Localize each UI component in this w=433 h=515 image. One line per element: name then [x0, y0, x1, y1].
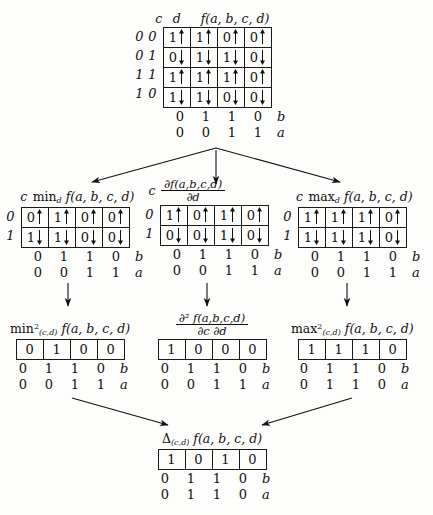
axis-row-a: 0110a	[152, 487, 272, 503]
row-header-c: c	[151, 12, 167, 25]
axis-a-value: 1	[204, 377, 230, 393]
table-cell: 1	[298, 340, 325, 360]
op-subscript: d	[335, 196, 340, 205]
axis-label-a: a	[401, 377, 411, 393]
cell-value: 0	[194, 342, 202, 357]
axis-a-value: 0	[302, 265, 328, 281]
cell-value: 0	[108, 230, 116, 245]
row-header-d: d	[167, 12, 187, 25]
arrow-down-icon	[232, 49, 239, 65]
axis-b-value: 0	[230, 471, 256, 487]
table-cell: 0	[218, 88, 245, 108]
arrow-down-icon	[117, 229, 124, 245]
axis-b-value: 0	[167, 109, 193, 125]
table-block-f: cdf(a, b, c, d) 00 01 11 10 1 1 0 0 0 1	[133, 12, 287, 141]
arrow-down-icon	[313, 229, 320, 245]
axis-row-a: 0011a	[152, 377, 272, 393]
axis-a-value: 1	[178, 487, 204, 503]
cell-value: 0	[247, 228, 255, 243]
cell-value: 0	[385, 230, 393, 245]
axis-row-b: 0110b	[152, 471, 272, 487]
axis-label-a: a	[412, 265, 422, 281]
cell-value: 1	[223, 50, 231, 65]
cell-value: 1	[27, 230, 35, 245]
axis-b-value: 1	[62, 361, 88, 377]
axis-b-value: 0	[152, 471, 178, 487]
truth-table-deriv-d: 1 0 1 0 0 0 1 0	[160, 205, 269, 246]
cell-value: 1	[54, 210, 62, 225]
axis-b-value: 0	[25, 249, 51, 265]
table-row: 1 1 0 0	[22, 228, 130, 248]
axis-a-value: 1	[343, 377, 369, 393]
table-cell: 1	[299, 228, 326, 248]
table-cell: 1	[326, 208, 353, 228]
arrow-up-icon	[205, 69, 212, 85]
table-cell: 1	[191, 48, 218, 68]
table-cell: 0	[245, 88, 272, 108]
cell-value: 0	[81, 230, 89, 245]
cell-value: 1	[304, 210, 312, 225]
axis-row-a: 0011a	[10, 377, 130, 393]
table-cell: 0	[242, 206, 269, 226]
arrow-down-icon	[259, 89, 266, 105]
axis-b-value: 1	[51, 249, 77, 265]
row-label-c: 0	[4, 207, 17, 226]
table-cell: 1	[353, 208, 380, 228]
axis-label-a: a	[262, 377, 272, 393]
cell-value: 1	[167, 452, 175, 467]
cell-value: 1	[54, 230, 62, 245]
axis-rows-min-d: 0110b 0011a	[4, 249, 145, 281]
table-cell: 0	[76, 228, 103, 248]
arrow-up-icon	[229, 207, 236, 223]
cell-value: 0	[250, 90, 258, 105]
fraction-deriv2-cd: ∂² f(a,b,c,d)∂c ∂d	[176, 312, 248, 337]
table-cell: 0	[22, 208, 49, 228]
table-cell: 0	[185, 340, 212, 360]
axis-b-value: 1	[219, 109, 245, 125]
table-cell: 0	[242, 226, 269, 246]
table-cell: 1	[164, 68, 191, 88]
table-cell: 1	[191, 88, 218, 108]
axis-rows-f: 0110b 0011a	[133, 109, 287, 141]
axis-a-value: 0	[152, 487, 178, 503]
row-label: 0	[281, 207, 294, 226]
truth-table-min2-cd: 0 1 0 0	[16, 339, 125, 360]
table-cell: 0	[76, 208, 103, 228]
axis-a-value: 0	[51, 265, 77, 281]
axis-b-value: 0	[245, 109, 271, 125]
cell-value: 0	[223, 30, 231, 45]
row-label-d: 1	[146, 46, 159, 65]
table-cell: 0	[103, 208, 130, 228]
caption-max2-cd: max2(c,d) f(a, b, c, d)	[291, 322, 414, 337]
arrow-up-icon	[256, 207, 263, 223]
caption-deriv-d: c∂f(a,b,c,d)∂d	[143, 178, 284, 203]
cell-value: 0	[166, 228, 174, 243]
arrow-down-icon	[205, 89, 212, 105]
row-label: 1	[4, 226, 17, 245]
arrow-up-icon	[367, 209, 374, 225]
axis-a-value: 0	[291, 377, 317, 393]
table-cell: 1	[218, 48, 245, 68]
table-cell: 0	[212, 340, 239, 360]
table-cell: 1	[353, 228, 380, 248]
op-subscript: (c,d)	[39, 328, 57, 337]
table-cell: 1	[158, 450, 185, 470]
row-label-d: 1	[146, 65, 159, 84]
row-label-c: 1	[4, 226, 17, 245]
axis-row-b: 0110b	[10, 361, 130, 377]
table-cell: 0	[188, 206, 215, 226]
truth-table-max2-cd: 1 1 1 0	[298, 339, 407, 360]
row-label: 1	[281, 226, 294, 245]
row-labels-deriv-d: 0 1	[143, 205, 156, 243]
caption-fn: f(a, b, c, d)	[193, 431, 262, 446]
caption-max-d: cmaxd f(a, b, c, d)	[281, 190, 422, 205]
table-row: 1 1 1 0	[164, 68, 272, 88]
table-row: 1 0 1 0	[158, 450, 266, 470]
cell-value: 0	[250, 50, 258, 65]
axis-a-value: 0	[230, 487, 256, 503]
axis-label-b: b	[412, 249, 422, 265]
arrow-down-icon	[178, 49, 185, 65]
cell-value: 0	[106, 342, 114, 357]
caption-min2-cd: min2(c,d) f(a, b, c, d)	[10, 322, 130, 337]
arrow-up-icon	[90, 209, 97, 225]
